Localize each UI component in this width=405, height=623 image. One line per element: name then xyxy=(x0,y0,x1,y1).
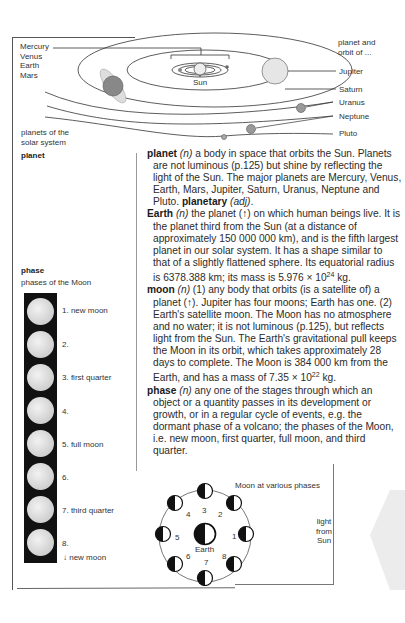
headword-planet: planet xyxy=(147,148,177,159)
jupiter-icon xyxy=(262,58,288,84)
phase-label-1: 1. new moon xyxy=(62,306,108,315)
orbit-num-8: 8 xyxy=(222,552,226,562)
entry-moon: moon (n) (1) any body that orbits (is a … xyxy=(147,284,402,384)
frame-bottom-line xyxy=(17,587,235,589)
orbit-moon-5-icon xyxy=(156,527,171,542)
earth-icon xyxy=(195,524,216,545)
orbit-header-note: planet and orbit of ... xyxy=(338,38,388,57)
phase-label-5: 5. full moon xyxy=(62,440,103,449)
moon-orbit-diagram xyxy=(150,478,340,586)
pos-phase: (n) xyxy=(179,385,191,396)
saturn-icon xyxy=(103,76,123,96)
orbit-num-4: 4 xyxy=(186,510,190,520)
moon-phase-8-icon xyxy=(27,529,54,556)
pos-moon: (n) xyxy=(178,284,190,295)
phase-label-8: 8. xyxy=(62,539,69,548)
moon-phase-5-icon xyxy=(27,430,54,457)
label-pluto: Pluto xyxy=(339,129,357,139)
def-moon: (1) any body that orbits (is a satellite… xyxy=(153,284,397,383)
pos-earth: (n) xyxy=(176,208,188,219)
phase-label-3: 3. first quarter xyxy=(62,373,111,382)
phase-label-4: 4. xyxy=(62,407,69,416)
label-mercury: Mercury xyxy=(20,42,49,52)
orbit-num-1: 1 xyxy=(232,532,236,542)
column-divider xyxy=(136,153,137,471)
label-venus: Venus xyxy=(20,52,49,62)
entry-phase: phase (n) any one of the stages through … xyxy=(147,385,402,458)
pos-planet: (n) xyxy=(180,148,192,159)
def-earth-tail: kg. xyxy=(334,272,350,283)
earth-label: Earth xyxy=(195,545,214,555)
moon-phase-2-icon xyxy=(27,331,54,358)
headword-earth: Earth xyxy=(147,208,173,219)
headword-phase: phase xyxy=(147,385,176,396)
orbit-moon-1-icon xyxy=(239,527,254,542)
pluto-icon xyxy=(222,135,227,140)
def-moon-tail: kg. xyxy=(320,372,336,383)
moon-diagram-title: Moon at various phases xyxy=(235,481,320,491)
orbit-moon-3-icon xyxy=(198,484,213,499)
label-mars: Mars xyxy=(20,71,49,81)
sidebar-heading-planet: planet xyxy=(21,151,45,160)
def-earth: the planet (↑) on which human beings liv… xyxy=(153,208,400,283)
orbit-moon-6-icon xyxy=(168,557,183,572)
uranus-icon xyxy=(297,104,306,113)
sunlight-arrow-icon xyxy=(370,490,405,590)
orbit-num-3: 3 xyxy=(202,506,206,516)
orbit-moon-4-icon xyxy=(168,496,183,511)
phase-footer-new-moon: ↓ new moon xyxy=(63,553,106,562)
neptune-icon xyxy=(247,125,256,134)
def-planet-end: . xyxy=(250,196,253,207)
solar-system-caption: planets of the solar system xyxy=(21,128,81,147)
phase-label-2: 2. xyxy=(62,340,69,349)
light-label-line3: Sun xyxy=(316,536,332,546)
inner-planets-labels: Mercury Venus Earth Mars xyxy=(20,42,49,80)
exp-moon: 22 xyxy=(312,371,320,378)
phase-label-6: 6. xyxy=(62,473,69,482)
moon-phase-3-icon xyxy=(27,364,54,391)
derived-pos: (adj) xyxy=(230,196,250,207)
orbit-num-7: 7 xyxy=(204,558,208,568)
entry-planet: planet (n) a body in space that orbits t… xyxy=(147,148,402,208)
label-sun: Sun xyxy=(193,78,207,88)
orbit-moon-2-icon xyxy=(227,496,242,511)
moon-phase-strip xyxy=(24,293,57,563)
phases-caption: phases of the Moon xyxy=(21,278,91,288)
label-earth: Earth xyxy=(20,61,49,71)
label-neptune: Neptune xyxy=(339,112,369,122)
label-uranus: Uranus xyxy=(339,98,365,108)
sun-icon xyxy=(194,63,206,75)
moon-phase-6-icon xyxy=(27,463,54,490)
light-from-sun-label: light from Sun xyxy=(316,517,332,546)
orbit-num-2: 2 xyxy=(218,510,222,520)
moon-phase-4-icon xyxy=(27,397,54,424)
sidebar-heading-phase: phase xyxy=(21,266,44,275)
light-label-line2: from xyxy=(316,527,332,537)
moon-phase-1-icon xyxy=(27,298,54,325)
entry-earth: Earth (n) the planet (↑) on which human … xyxy=(147,208,402,284)
label-saturn: Saturn xyxy=(339,85,363,95)
orbit-num-6: 6 xyxy=(186,552,190,562)
definitions-column: planet (n) a body in space that orbits t… xyxy=(147,148,402,457)
headword-moon: moon xyxy=(147,284,175,295)
phase-label-7: 7. third quarter xyxy=(62,506,114,515)
derived-planetary: planetary xyxy=(182,196,227,207)
label-jupiter: Jupiter xyxy=(339,67,363,77)
moon-phase-7-icon xyxy=(27,496,54,523)
light-label-line1: light xyxy=(316,517,332,527)
orbit-moon-7-icon xyxy=(198,571,213,586)
orbit-moon-8-icon xyxy=(227,557,242,572)
orbit-num-5: 5 xyxy=(175,533,179,543)
